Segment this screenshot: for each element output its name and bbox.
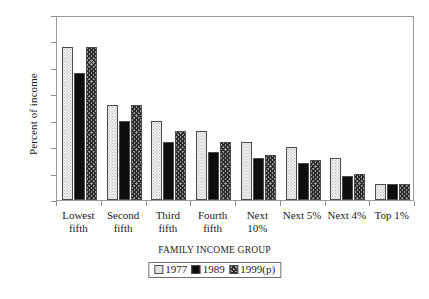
legend-label: 1989 — [203, 264, 225, 275]
bar-1989-1 — [74, 73, 85, 200]
bar-1999p-8 — [399, 184, 410, 200]
bar-1977-2 — [107, 105, 118, 200]
x-axis-tick-mark — [325, 201, 326, 206]
x-axis-category-label: Next 10% — [235, 209, 280, 234]
bar-1999p-2 — [131, 105, 142, 200]
x-axis-tick-mark — [280, 201, 281, 206]
bar-1977-8 — [375, 184, 386, 200]
bar-chart-figure: Percent of income 00.511.522.533.5 Lowes… — [0, 0, 429, 299]
x-axis-tick-mark — [146, 201, 147, 206]
bar-1977-1 — [62, 47, 73, 200]
bar-group — [281, 17, 326, 200]
legend-swatch-icon — [154, 265, 163, 274]
x-axis-category-label: Third fifth — [146, 209, 191, 234]
x-axis-category-label: Next 4% — [325, 209, 370, 222]
legend: 197719891999(p) — [148, 262, 281, 278]
bar-group — [326, 17, 371, 200]
bar-1989-4 — [208, 152, 219, 200]
x-axis-title: FAMILY INCOME GROUP — [0, 245, 429, 255]
bar-1999p-3 — [175, 131, 186, 200]
legend-entry-1999p[interactable]: 1999(p) — [229, 264, 275, 275]
x-axis-category-label: Lowest fifth — [56, 209, 101, 234]
bar-group — [147, 17, 192, 200]
x-axis-tick-mark — [190, 201, 191, 206]
x-axis-category-label: Fourth fifth — [190, 209, 235, 234]
legend-label: 1999(p) — [240, 264, 275, 275]
bar-1999p-7 — [354, 174, 365, 200]
legend-swatch-icon — [191, 265, 200, 274]
bar-1989-8 — [387, 184, 398, 200]
x-axis-tick-mark — [101, 201, 102, 206]
bar-1989-3 — [163, 142, 174, 200]
bar-1989-6 — [298, 163, 309, 200]
bar-1977-7 — [330, 158, 341, 200]
plot-area — [56, 16, 414, 201]
bar-1977-5 — [241, 142, 252, 200]
bar-1999p-4 — [220, 142, 231, 200]
legend-entry-1977[interactable]: 1977 — [154, 264, 188, 275]
bar-1989-2 — [119, 121, 130, 200]
bar-group — [370, 17, 415, 200]
bar-1977-3 — [151, 121, 162, 200]
bars-layer — [57, 17, 413, 200]
bar-1977-6 — [286, 147, 297, 200]
x-axis-tick-mark — [369, 201, 370, 206]
x-axis-tick-mark — [235, 201, 236, 206]
x-axis-tick-mark — [56, 201, 57, 206]
bar-1989-5 — [253, 158, 264, 200]
x-axis-tick-mark — [414, 201, 415, 206]
bar-1999p-5 — [265, 155, 276, 200]
x-axis-category-label: Next 5% — [280, 209, 325, 222]
bar-group — [102, 17, 147, 200]
x-axis-category-label: Second fifth — [101, 209, 146, 234]
x-axis-category-label: Top 1% — [369, 209, 414, 222]
bar-group — [236, 17, 281, 200]
bar-group — [191, 17, 236, 200]
legend-swatch-icon — [229, 265, 238, 274]
bar-1999p-1 — [86, 47, 97, 200]
bar-group — [57, 17, 102, 200]
y-axis-title: Percent of income — [27, 34, 39, 194]
bar-1989-7 — [342, 176, 353, 200]
bar-1999p-6 — [310, 160, 321, 200]
legend-entry-1989[interactable]: 1989 — [191, 264, 225, 275]
legend-label: 1977 — [165, 264, 187, 275]
bar-1977-4 — [196, 131, 207, 200]
